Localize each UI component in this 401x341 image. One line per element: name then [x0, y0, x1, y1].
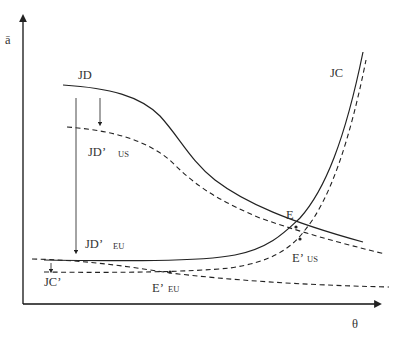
point-e-us-label-main: E’ [292, 251, 304, 265]
jd-eu-label-sub: EU [113, 241, 124, 251]
point-e [294, 225, 297, 228]
x-axis-label: θ [352, 317, 358, 331]
jc-label: JC [330, 66, 343, 80]
point-e-us [298, 237, 301, 240]
point-e-label: E [286, 208, 294, 222]
point-e-us-label-sub: US [307, 254, 318, 264]
equilibrium-diagram: ā θ JD JD’ US JD’ EU JC JC’ E E’ US E’ E… [0, 0, 401, 341]
jd-eu-label-main: JD’ [85, 237, 103, 251]
jd-us-label-main: JD’ [88, 145, 106, 159]
point-e-eu-label-main: E’ [152, 281, 164, 295]
jc-prime-label: JC’ [44, 275, 61, 289]
point-e-eu-label-sub: EU [168, 284, 179, 294]
jd-eu-curve [32, 259, 389, 287]
y-axis-label: ā [5, 33, 11, 47]
point-e-eu [168, 270, 171, 273]
jd-us-label-sub: US [118, 149, 129, 159]
jd-curve [63, 85, 363, 242]
jd-label: JD [78, 68, 92, 82]
